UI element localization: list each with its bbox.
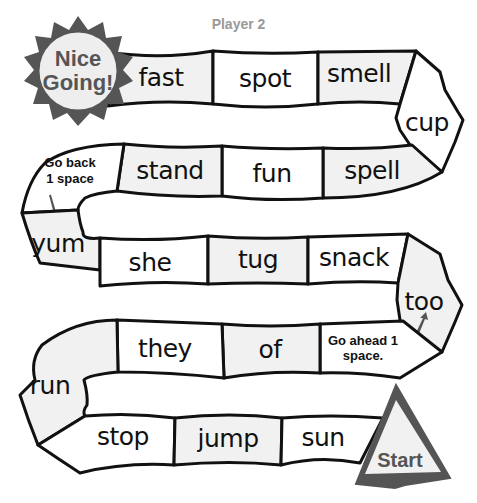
space-too-label: too — [405, 287, 444, 316]
space-she[interactable]: she — [100, 236, 208, 286]
space-spot[interactable]: spot — [213, 51, 318, 107]
start-label: Start — [377, 449, 423, 471]
space-they[interactable]: they — [117, 320, 224, 378]
space-of-label: of — [258, 335, 283, 364]
space-they-label: they — [138, 334, 193, 363]
space-fun-label: fun — [253, 159, 292, 188]
space-stop-label: stop — [97, 422, 149, 451]
space-fun[interactable]: fun — [222, 146, 323, 200]
space-spell-label: spell — [344, 156, 400, 185]
space-jump-label: jump — [196, 424, 258, 453]
finish-badge[interactable]: Nice Going! — [24, 16, 133, 126]
space-tug[interactable]: tug — [208, 236, 308, 284]
space-spot-label: spot — [239, 64, 292, 93]
space-jump[interactable]: jump — [174, 415, 282, 465]
game-board: fast spot smell cup spell fun stand Go b… — [0, 0, 477, 503]
go-back-line1: Go back — [44, 155, 96, 170]
space-fast-label: fast — [139, 63, 185, 92]
space-stand-label: stand — [136, 156, 203, 185]
space-stand[interactable]: stand — [117, 144, 222, 196]
go-ahead-line1: Go ahead 1 — [328, 333, 398, 348]
space-snack[interactable]: snack — [308, 234, 408, 284]
finish-line2: Going! — [43, 70, 114, 95]
space-sun-label: sun — [301, 423, 344, 452]
go-ahead-line2: space. — [343, 348, 383, 363]
space-of[interactable]: of — [222, 324, 320, 378]
space-cup-label: cup — [405, 108, 449, 137]
space-yum-label: yum — [31, 229, 85, 258]
finish-line1: Nice — [55, 46, 101, 71]
space-tug-label: tug — [238, 245, 278, 274]
space-she-label: she — [129, 248, 172, 277]
space-yum[interactable]: yum — [22, 210, 100, 270]
space-snack-label: snack — [319, 243, 390, 272]
go-back-line2: 1 space — [46, 171, 94, 186]
space-run-label: run — [30, 371, 70, 400]
space-smell-label: smell — [327, 59, 391, 88]
